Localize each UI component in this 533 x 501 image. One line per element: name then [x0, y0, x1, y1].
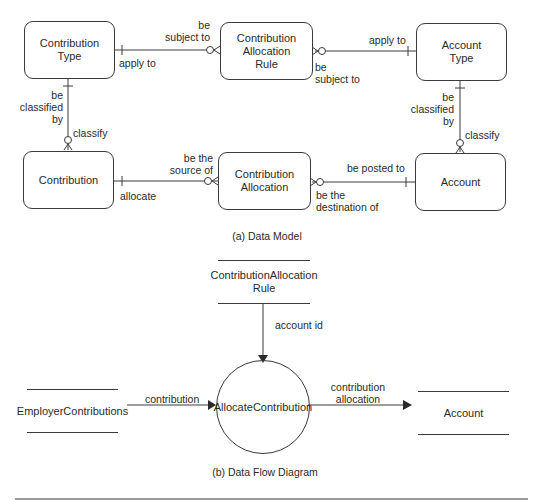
process-allocate-contribution: AllocateContribution [216, 360, 310, 454]
rel-label-line: be [160, 19, 210, 31]
data-store-account: Account [418, 391, 509, 435]
entity-label: Allocation [237, 45, 296, 58]
entity-contribution-allocation: ContributionAllocation [218, 152, 311, 210]
entity-label: Type [40, 50, 99, 63]
rel-label-allocate: allocate [120, 190, 156, 202]
rel-label-car-be-subject-to: be subject to [160, 19, 210, 43]
flow-label-account-id: account id [275, 319, 323, 331]
flow-label-contribution-allocation: contribution allocation [323, 381, 393, 405]
rel-label-car-be-subject-to-2: be subject to [315, 61, 360, 85]
store-label: Employer [17, 405, 63, 417]
entity-label: Contribution [235, 168, 294, 181]
process-label: Contribution [253, 401, 312, 413]
rel-label-classify: classify [73, 127, 107, 139]
entity-contribution-allocation-rule: ContributionAllocationRule [220, 22, 313, 80]
store-label: Contributions [63, 405, 128, 417]
rel-label-classify-2: classify [465, 129, 499, 141]
rel-label-line: be the [316, 189, 378, 201]
rel-label-be-classified-by-2: be classified by [400, 91, 454, 127]
flow-label-line: contribution [323, 381, 393, 393]
caption-data-model: (a) Data Model [200, 230, 334, 242]
entity-account-type: AccountType [416, 23, 507, 81]
data-store-employer-contributions: EmployerContributions [27, 389, 118, 433]
entity-label: Contribution [39, 174, 98, 187]
entity-label: Type [442, 52, 482, 65]
rel-label-line: by [400, 115, 454, 127]
entity-account: Account [415, 153, 506, 211]
data-store-contribution-allocation-rule: ContributionAllocation Rule [218, 260, 310, 304]
caption-data-flow-diagram: (b) Data Flow Diagram [190, 466, 340, 478]
rel-label-line: classified [400, 103, 454, 115]
rel-label-line: be the [155, 152, 213, 164]
entity-label: Account [441, 176, 481, 189]
rel-label-be-the-source-of: be the source of [155, 152, 213, 176]
entity-label: Allocation [235, 181, 294, 194]
entity-label: Contribution [237, 32, 296, 45]
rel-label-ct-apply-to: apply to [119, 57, 156, 69]
store-label: Contribution [210, 269, 269, 281]
rel-label-line: subject to [315, 73, 360, 85]
rel-label-line: classified [10, 101, 63, 113]
rel-label-be-the-destination-of: be the destination of [316, 189, 378, 213]
process-label: Allocate [214, 401, 253, 413]
rel-label-be-classified-by: be classified by [10, 89, 63, 125]
entity-label: Contribution [40, 37, 99, 50]
flow-label-contribution: contribution [145, 393, 199, 405]
entity-contribution: Contribution [23, 151, 114, 209]
rel-label-be-posted-to: be posted to [347, 162, 405, 174]
rel-label-at-apply-to: apply to [369, 34, 406, 46]
entity-label: Rule [237, 58, 296, 71]
rel-label-line: be [400, 91, 454, 103]
rel-label-line: subject to [160, 31, 210, 43]
rel-label-line: be [315, 61, 360, 73]
rel-label-line: source of [155, 164, 213, 176]
flow-label-line: allocation [323, 393, 393, 405]
rel-label-line: be [10, 89, 63, 101]
rel-label-line: by [10, 113, 63, 125]
entity-label: Account [442, 39, 482, 52]
store-label: Account [444, 407, 484, 419]
entity-contribution-type: ContributionType [24, 21, 115, 79]
rel-label-line: destination of [316, 201, 378, 213]
